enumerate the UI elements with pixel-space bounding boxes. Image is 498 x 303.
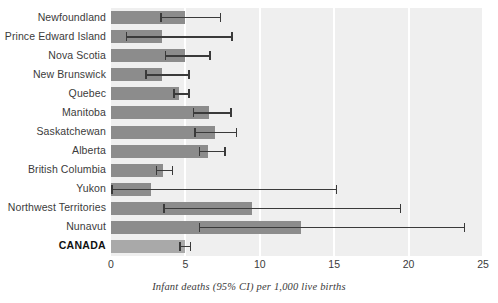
gridline-20 — [408, 8, 410, 256]
x-tick-label: 20 — [403, 258, 415, 270]
category-label: Prince Edward Island — [0, 31, 106, 42]
error-bar-line — [199, 227, 465, 228]
x-axis-caption: Infant deaths (95% CI) per 1,000 live bi… — [0, 281, 498, 292]
category-label: Alberta — [0, 145, 106, 156]
error-bar-cap-high — [464, 223, 466, 232]
bar — [111, 145, 208, 158]
error-bar-cap-low — [126, 32, 128, 41]
error-bar-cap-low — [156, 166, 158, 175]
error-bar-cap-high — [172, 166, 174, 175]
error-bar — [160, 13, 221, 22]
error-bar-cap-high — [400, 204, 402, 213]
error-bar-cap-low — [111, 185, 113, 194]
category-label: Manitoba — [0, 107, 106, 118]
error-bar-cap-low — [173, 89, 175, 98]
error-bar-line — [111, 189, 337, 190]
category-label: British Columbia — [0, 164, 106, 175]
error-bar — [156, 166, 174, 175]
error-bar-cap-low — [199, 223, 201, 232]
infant-mortality-bar-chart: NewfoundlandPrince Edward IslandNova Sco… — [0, 0, 498, 303]
error-bar-cap-low — [193, 108, 195, 117]
x-tick-label: 25 — [477, 258, 489, 270]
error-bar-cap-high — [231, 32, 233, 41]
error-bar — [193, 108, 232, 117]
category-label: Yukon — [0, 183, 106, 194]
error-bar-cap-high — [220, 13, 222, 22]
error-bar-cap-low — [194, 128, 196, 137]
error-bar-cap-high — [188, 70, 190, 79]
error-bar — [163, 204, 401, 213]
category-label: CANADA — [0, 240, 106, 251]
x-tick-label: 0 — [108, 258, 114, 270]
error-bar-cap-low — [165, 51, 167, 60]
error-bar — [199, 223, 465, 232]
error-bar — [111, 185, 337, 194]
category-label: Nunavut — [0, 221, 106, 232]
error-bar — [165, 51, 211, 60]
error-bar-cap-high — [224, 147, 226, 156]
error-bar-line — [160, 17, 221, 18]
error-bar-cap-high — [236, 128, 238, 137]
error-bar-cap-high — [188, 89, 190, 98]
error-bar-line — [156, 170, 174, 171]
error-bar — [145, 70, 190, 79]
error-bar-cap-high — [336, 185, 338, 194]
x-tick-label: 15 — [328, 258, 340, 270]
category-label: Newfoundland — [0, 12, 106, 23]
x-tick-label: 10 — [254, 258, 266, 270]
category-label: Nova Scotia — [0, 50, 106, 61]
category-label: Northwest Territories — [0, 202, 106, 213]
category-label: New Brunswick — [0, 69, 106, 80]
gridline-25 — [482, 8, 484, 256]
error-bar — [199, 147, 226, 156]
error-bar — [179, 242, 191, 251]
error-bar-cap-low — [199, 147, 201, 156]
error-bar-line — [194, 132, 237, 133]
error-bar-cap-low — [145, 70, 147, 79]
error-bar-cap-low — [163, 204, 165, 213]
error-bar — [126, 32, 233, 41]
category-axis-labels: NewfoundlandPrince Edward IslandNova Sco… — [0, 8, 106, 256]
x-tick-label: 5 — [182, 258, 188, 270]
error-bar-line — [193, 112, 232, 113]
error-bar-cap-high — [190, 242, 192, 251]
error-bar-cap-high — [230, 108, 232, 117]
gridline-15 — [333, 8, 335, 256]
error-bar-line — [165, 55, 211, 56]
error-bar — [194, 128, 237, 137]
error-bar-line — [199, 151, 226, 152]
category-label: Saskatchewan — [0, 126, 106, 137]
bar — [111, 87, 179, 100]
error-bar-cap-high — [209, 51, 211, 60]
error-bar-line — [145, 74, 190, 75]
gridline-10 — [259, 8, 261, 256]
error-bar-cap-low — [179, 242, 181, 251]
x-axis-ticks: 0510152025 — [111, 258, 483, 274]
error-bar-cap-low — [160, 13, 162, 22]
bar — [111, 240, 185, 253]
error-bar-line — [126, 36, 233, 37]
error-bar — [173, 89, 189, 98]
error-bar-line — [163, 208, 401, 209]
plot-area — [111, 8, 483, 256]
category-label: Quebec — [0, 88, 106, 99]
